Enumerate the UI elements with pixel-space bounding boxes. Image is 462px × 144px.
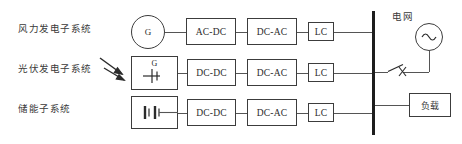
wire-wind-lc-to-bus (334, 32, 373, 33)
converter-wind-ac-dc: AC-DC (186, 18, 236, 45)
subsystem-label-pv: 光伏发电子系统 (18, 64, 92, 74)
diagram-canvas: 风力发电子系统 光伏发电子系统 储能子系统 电网 G AC-DC DC-AC L… (0, 0, 462, 144)
wire-pv-dcdc-to-dcac (236, 73, 247, 74)
converter-pv-dc-ac: DC-AC (247, 59, 297, 86)
wire-batt-src-to-dcdc (178, 113, 187, 114)
grid-label: 电网 (392, 12, 413, 22)
converter-pv-dc-dc: DC-DC (187, 59, 236, 86)
wire-grid-down (429, 51, 430, 72)
sunlight-arrow-icon (100, 58, 124, 80)
load-box: 负载 (409, 93, 451, 117)
generator-label: G (145, 27, 152, 37)
pv-source-label: G (132, 59, 177, 68)
wire-wind-dcac-to-lc (297, 32, 308, 33)
converter-storage-dc-ac: DC-AC (247, 99, 297, 126)
battery-source-symbol (131, 96, 178, 129)
ac-bus-bar (372, 11, 375, 135)
wire-bus-to-load (375, 105, 409, 106)
pv-source-symbol: G (131, 56, 178, 90)
converter-wind-dc-ac: DC-AC (247, 18, 297, 45)
wire-storage-dcac-to-lc (297, 113, 308, 114)
wire-pv-dcac-to-lc (297, 73, 308, 74)
wire-pv-lc-to-bus (334, 73, 373, 74)
wire-wind-gen-to-acdc (165, 32, 186, 33)
filter-pv-lc: LC (308, 63, 334, 82)
open-switch-icon (388, 65, 406, 77)
subsystem-label-wind: 风力发电子系统 (18, 24, 92, 34)
converter-storage-dc-dc: DC-DC (187, 99, 236, 126)
wire-bus-to-switch (375, 72, 388, 73)
wire-wind-acdc-to-dcac (236, 32, 247, 33)
wire-storage-dcdc-to-dcac (236, 113, 247, 114)
subsystem-label-storage: 储能子系统 (18, 104, 71, 114)
grid-ac-source-symbol (415, 23, 443, 51)
wind-generator-symbol: G (131, 15, 165, 49)
filter-wind-lc: LC (308, 22, 334, 41)
wire-grid-to-switch (403, 72, 429, 73)
wire-storage-lc-to-bus (334, 113, 373, 114)
wire-pv-src-to-dcdc (178, 73, 187, 74)
filter-storage-lc: LC (308, 103, 334, 122)
